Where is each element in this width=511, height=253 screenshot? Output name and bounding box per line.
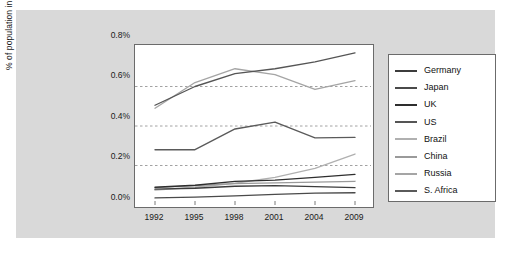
- series-canvas: [135, 45, 373, 207]
- plot-area: [134, 44, 374, 208]
- y-axis-tick-labels: 0.8% 0.6% 0.4% 0.2% 0.0%: [78, 10, 130, 253]
- x-tick-label: 1995: [185, 212, 204, 222]
- chart-panel: % of population in prison 0.8% 0.6% 0.4%…: [16, 10, 495, 238]
- series-line: [155, 53, 355, 105]
- y-tick-label: 0.4%: [111, 111, 130, 121]
- legend-item-label: UK: [424, 100, 437, 109]
- x-tick-label: 2009: [345, 212, 364, 222]
- x-axis-tick-labels: 1992 1995 1998 2001 2004 2009: [134, 212, 374, 228]
- x-tick-label: 2004: [305, 212, 324, 222]
- legend-item-label: Russia: [424, 169, 452, 178]
- legend-line-swatch: [395, 104, 417, 106]
- y-axis-title: % of population in prison: [4, 0, 14, 70]
- y-tick-label: 0.8%: [111, 30, 130, 40]
- y-tick-label: 0.0%: [111, 192, 130, 202]
- legend-line-swatch: [395, 156, 417, 158]
- legend-line-swatch: [395, 138, 417, 140]
- x-tick-label: 1992: [145, 212, 164, 222]
- y-tick-label: 0.2%: [111, 151, 130, 161]
- series-line: [155, 154, 355, 190]
- legend-item-label: Japan: [424, 83, 449, 92]
- legend-item-label: China: [424, 152, 448, 161]
- chart-screenshot: % of population in prison 0.8% 0.6% 0.4%…: [0, 0, 511, 253]
- legend-item[interactable]: China: [395, 148, 495, 165]
- legend-item[interactable]: Germany: [395, 62, 495, 79]
- legend-item[interactable]: S. Africa: [395, 182, 495, 199]
- legend-item[interactable]: Brazil: [395, 131, 495, 148]
- legend-line-swatch: [395, 173, 417, 175]
- legend-item[interactable]: UK: [395, 96, 495, 113]
- legend-item-label: Germany: [424, 66, 461, 75]
- chart-legend: GermanyJapanUKUSBrazilChinaRussiaS. Afri…: [388, 54, 496, 202]
- legend-line-swatch: [395, 190, 417, 192]
- legend-item[interactable]: Russia: [395, 165, 495, 182]
- x-tick-label: 1998: [225, 212, 244, 222]
- y-tick-label: 0.6%: [111, 70, 130, 80]
- legend-item[interactable]: Japan: [395, 79, 495, 96]
- legend-line-swatch: [395, 87, 417, 89]
- series-line: [155, 69, 355, 109]
- x-tick-label: 2001: [265, 212, 284, 222]
- legend-item[interactable]: US: [395, 114, 495, 131]
- series-line: [155, 193, 355, 198]
- legend-item-label: Brazil: [424, 135, 447, 144]
- legend-item-label: US: [424, 118, 437, 127]
- legend-item-label: S. Africa: [424, 186, 458, 195]
- legend-line-swatch: [395, 121, 417, 123]
- legend-line-swatch: [395, 70, 417, 72]
